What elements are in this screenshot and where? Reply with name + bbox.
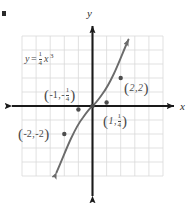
equation-coefficient-denominator: 4 [39,59,43,68]
paren-open: ( [44,89,49,102]
point-label-neg2-x: -2 [24,129,32,139]
fraction-numerator: 1 [118,113,122,120]
paren-close: ) [122,115,127,128]
paren-open: ( [18,128,23,141]
point-pos2 [119,76,123,80]
fraction-denominator: 4 [66,95,70,104]
point-label-neg1-y-sign: - [61,90,64,100]
y-axis-label: y [87,8,92,19]
point-label-pos2: ( 2 , 2 ) [124,82,149,95]
equation-lhs: y [25,54,29,64]
point-label-neg1: ( -1 , - 1 4 ) [44,87,75,103]
equation-label: y = 1 4 x 3 [25,51,54,67]
equation-exponent: 3 [50,53,54,60]
point-label-neg2: ( -2 , -2 ) [18,128,49,141]
point-label-pos1-y-fraction: 1 4 [117,113,122,129]
equation-coefficient-fraction: 1 4 [38,51,43,67]
point-neg1 [76,107,80,111]
fraction-denominator: 4 [118,121,122,130]
paren-close: ) [44,128,49,141]
coordinate-plane-svg [0,0,193,206]
point-label-pos1-x: 1 [109,116,114,126]
equation-variable: x [44,54,48,64]
point-pos1 [104,100,108,104]
point-label-neg2-y: -2 [35,129,43,139]
point-label-pos1: ( 1 , 1 4 ) [103,113,127,129]
graph-figure: y x y = 1 4 x 3 ( -2 , -2 ) ( -1 , - 1 4… [0,0,193,206]
point-origin [90,104,94,108]
point-label-neg1-x: -1 [50,90,58,100]
equation-coefficient-numerator: 1 [39,51,43,58]
fraction-numerator: 1 [66,87,70,94]
point-label-pos2-x: 2 [130,83,135,93]
paren-open: ( [124,82,129,95]
equation-operator: = [31,54,37,64]
point-neg2 [62,132,66,136]
point-label-neg1-y-fraction: 1 4 [65,87,70,103]
x-axis-label: x [180,101,185,112]
paren-close: ) [144,82,149,95]
paren-close: ) [70,89,75,102]
point-label-pos2-y: 2 [138,83,143,93]
paren-open: ( [103,115,108,128]
